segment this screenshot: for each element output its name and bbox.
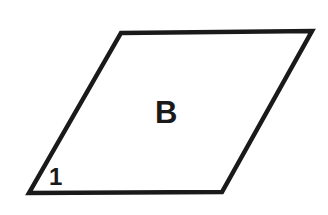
region-label-b: B (155, 97, 177, 128)
figure-canvas: B 1 (0, 0, 328, 215)
angle-label-1: 1 (49, 165, 62, 189)
